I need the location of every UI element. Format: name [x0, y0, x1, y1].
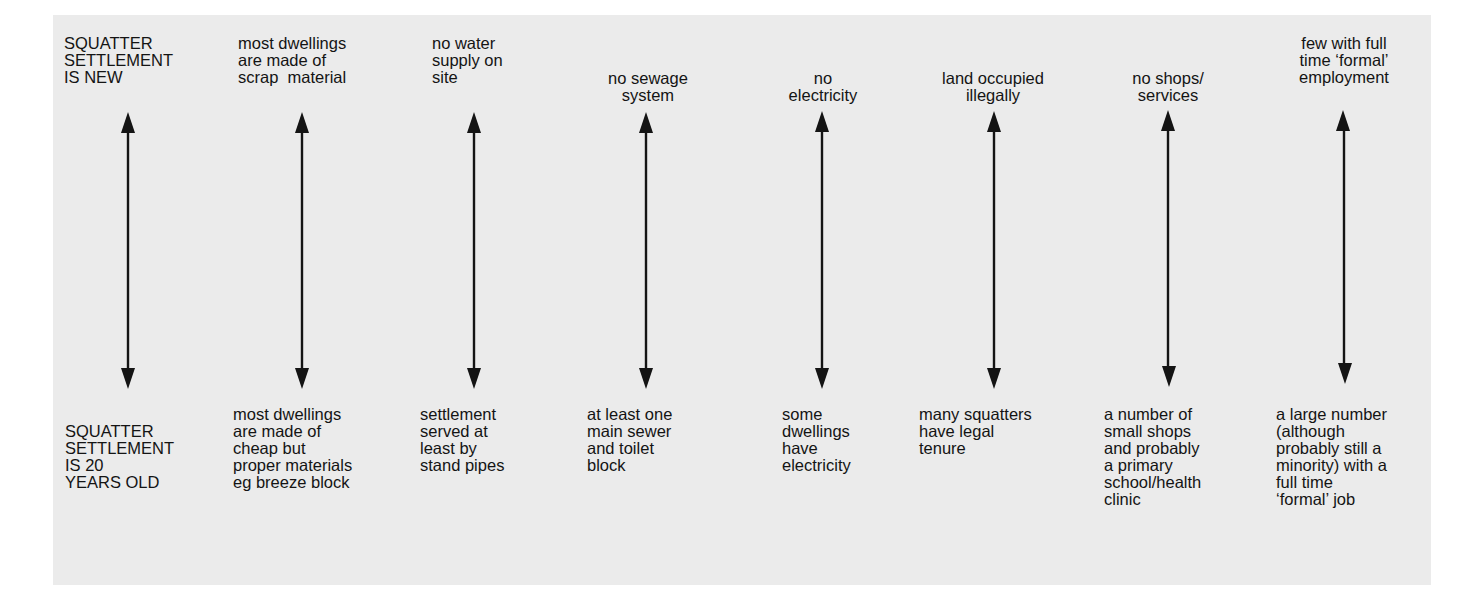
double-arrows: [0, 0, 1471, 595]
double-arrow-icon: [1336, 110, 1352, 384]
double-arrow-icon: [467, 112, 481, 389]
double-arrow-icon: [639, 112, 653, 389]
double-arrow-icon: [295, 112, 309, 389]
double-arrow-icon: [1161, 110, 1176, 387]
double-arrow-icon: [987, 111, 1001, 389]
double-arrow-icon: [815, 111, 829, 389]
double-arrow-icon: [121, 112, 135, 389]
